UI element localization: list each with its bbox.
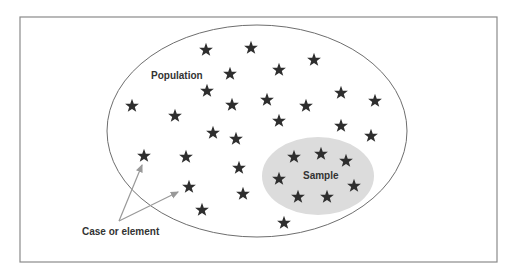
case-or-element-label: Case or element [82, 226, 160, 237]
population-sample-diagram: Population Sample Case or element [0, 0, 516, 274]
population-label: Population [151, 70, 203, 81]
sample-label: Sample [303, 170, 339, 181]
